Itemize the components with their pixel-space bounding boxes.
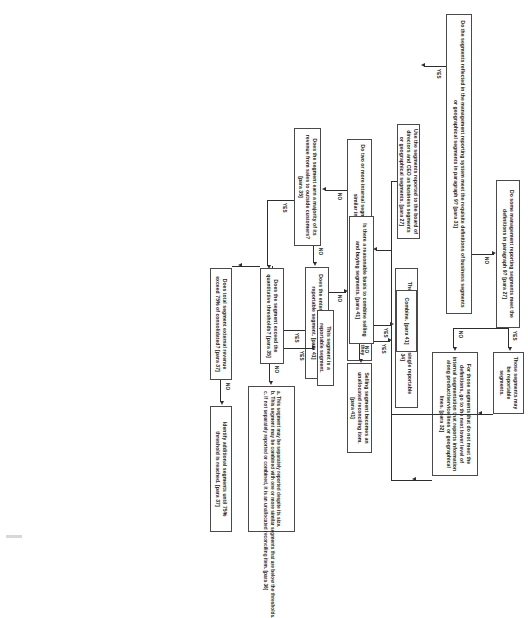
node-n2: Use the segments reported to the board o… — [397, 124, 420, 239]
note-b: b. This segment may be combined with one… — [268, 391, 274, 529]
node-n13-label: Does the segment exceed the quantitative… — [265, 272, 278, 360]
edge-n3-yes — [508, 328, 509, 348]
edge-n13-no — [269, 364, 270, 382]
node-n3-label: Do some management reporting segments me… — [501, 184, 514, 324]
node-n3: Do some management reporting segments me… — [496, 180, 520, 328]
edge-label-n9-yes: YES — [294, 333, 299, 343]
arrowhead-to-n15 — [238, 263, 242, 267]
arrowhead-n6-yes — [388, 338, 392, 342]
edge-label-n3-yes: YES — [512, 331, 517, 341]
arrowhead-n1-yes — [421, 63, 425, 67]
edge-rail-to-n6 — [376, 250, 392, 251]
edge-n3-no-riser — [454, 328, 509, 329]
edge-label-n9-no: NO — [337, 295, 342, 302]
node-n16: Identify additional segments until 75% t… — [210, 406, 232, 532]
node-n12-label: Selling segment becomes an unallocated r… — [349, 367, 369, 449]
edge-label-n1-yes: YES — [436, 69, 441, 79]
node-n1: Do the segments reflected in the managem… — [446, 14, 472, 314]
arrowhead-n13-yes — [312, 345, 316, 349]
edge-n8-yes-v — [268, 200, 294, 201]
node-n10-label: Is there a reasonable basis to combine s… — [355, 220, 368, 340]
edge-n1-no — [472, 254, 494, 255]
arrowhead-n10-yes — [390, 322, 394, 326]
edge-n8-no — [313, 246, 314, 263]
edge-to-n15 — [232, 266, 260, 267]
notes-box: a. This segment may be separately report… — [248, 386, 295, 532]
edge-label-n13-yes: YES — [299, 351, 304, 361]
edge-n1-yes — [424, 66, 446, 67]
edge-n15-no — [220, 380, 221, 402]
edge-label-n6-no: NO — [337, 193, 342, 200]
edge-n2-to-rail — [392, 181, 397, 182]
node-n10: Is there a reasonable basis to combine s… — [349, 216, 374, 344]
edge-label-n13-no: NO — [274, 366, 279, 373]
edge-label-n1-no: NO — [484, 257, 489, 264]
node-n8-label: Does the segment earn a majority of its … — [297, 132, 317, 242]
arrowhead-n5-rail — [412, 477, 416, 481]
node-n1-label: Do the segments reflected in the managem… — [452, 18, 465, 310]
edge-label-n8-yes: YES — [282, 203, 287, 213]
edge-n6-no — [325, 190, 347, 191]
page-artifact — [6, 535, 22, 538]
flowchart-canvas: Do the segments reflected in the managem… — [155, 0, 528, 542]
node-n15-label: Does total segment external revenue exce… — [214, 272, 227, 376]
node-n8: Does the segment earn a majority of its … — [294, 128, 321, 246]
edge-label-n3-no: NO — [458, 331, 463, 338]
arrowhead-n15-no — [220, 401, 224, 405]
node-n11: Combine. [para 41] — [396, 290, 417, 352]
arrowhead-n3-yes — [508, 347, 512, 351]
node-n11-label: Combine. [para 41] — [403, 294, 410, 348]
edge-n3-no — [453, 328, 454, 348]
edge-n8-yes-h — [267, 200, 268, 266]
edge-n10-no — [359, 344, 360, 360]
note-a: a. This segment may be separately report… — [275, 391, 281, 529]
node-n13: Does the segment exceed the quantitative… — [260, 268, 284, 364]
edge-label-n8-no: NO — [318, 248, 323, 255]
arrowhead-n6-no — [322, 187, 326, 191]
edge-n13-yes — [284, 348, 314, 349]
node-n12: Selling segment becomes an unallocated r… — [347, 363, 372, 453]
edge-label-n10-yes: YES — [383, 328, 388, 338]
edge-label-n15-no: NO — [225, 383, 230, 390]
node-n15: Does total segment external revenue exce… — [210, 268, 232, 380]
arrowhead-n9-no — [344, 289, 348, 293]
node-n4: Those segments may be reportable segment… — [493, 352, 524, 414]
edge-merge-rail — [391, 181, 392, 481]
note-c: c. If not separately reported or combine… — [262, 391, 268, 529]
edge-label-n10-no: NO — [364, 346, 369, 353]
arrowhead-n13-no — [269, 381, 273, 385]
arrowhead-n3-no — [453, 347, 457, 351]
node-n14: This segment is a reportable segment. — [317, 310, 334, 386]
arrowhead-n4-rail — [478, 411, 482, 415]
node-n4-label: Those segments may be reportable segment… — [498, 356, 518, 410]
arrowhead-n8-no — [313, 262, 317, 266]
node-n2-label: Use the segments reported to the board o… — [398, 128, 418, 235]
node-n14-label: This segment is a reportable segment. — [319, 314, 332, 382]
edge-label-n6-yes: YES — [381, 344, 386, 354]
node-n16-label: Identify additional segments until 75% t… — [214, 410, 227, 528]
